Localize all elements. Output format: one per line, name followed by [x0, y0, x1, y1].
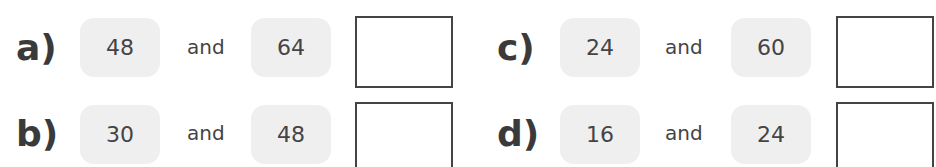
first-number: 48 — [80, 18, 160, 77]
problem-label: d) — [497, 116, 539, 152]
first-number: 30 — [80, 105, 160, 164]
answer-box[interactable] — [355, 102, 453, 167]
answer-box[interactable] — [836, 16, 934, 88]
connector-text: and — [187, 121, 225, 145]
problem-label: c) — [497, 30, 535, 66]
second-number: 24 — [731, 105, 811, 164]
first-number: 16 — [560, 105, 640, 164]
connector-text: and — [665, 121, 703, 145]
connector-text: and — [187, 35, 225, 59]
connector-text: and — [665, 35, 703, 59]
problem-label: a) — [16, 30, 57, 66]
problem-label: b) — [16, 116, 58, 152]
second-number: 64 — [251, 18, 331, 77]
second-number: 48 — [251, 105, 331, 164]
first-number: 24 — [560, 18, 640, 77]
answer-box[interactable] — [836, 102, 934, 167]
second-number: 60 — [731, 18, 811, 77]
answer-box[interactable] — [355, 16, 453, 88]
